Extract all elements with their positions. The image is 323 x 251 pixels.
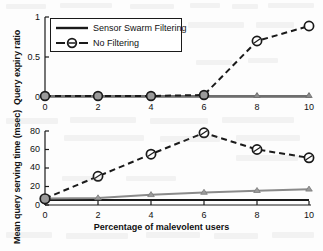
series-no-filtering-bottom: [45, 133, 309, 199]
legend-entry-sensor-swarm-filtering: Sensor Swarm Filtering: [55, 21, 187, 35]
chart-panel-top: Query expiry ratio 1 0.5 0 0 2 4 6 8 10: [0, 0, 323, 120]
legend-label-sensor-swarm-filtering: Sensor Swarm Filtering: [93, 23, 187, 33]
legend-sample-dashed-circle: [55, 37, 89, 49]
series-markers-triangle-bottom: [95, 186, 313, 200]
series-markers-circle-bottom: [40, 128, 313, 203]
plot-area-bottom: [0, 120, 323, 251]
legend-entry-no-filtering: No Filtering: [55, 36, 139, 50]
legend: Sensor Swarm Filtering No Filtering: [50, 18, 182, 52]
legend-sample-solid-line: [55, 22, 89, 34]
series-sensor-swarm-filtering-bottom: [45, 189, 309, 198]
figure-canvas: Query expiry ratio 1 0.5 0 0 2 4 6 8 10: [0, 0, 323, 251]
chart-panel-bottom: Mean query serving time (msec) 80 60 40 …: [0, 120, 323, 251]
legend-label-no-filtering: No Filtering: [93, 38, 139, 48]
